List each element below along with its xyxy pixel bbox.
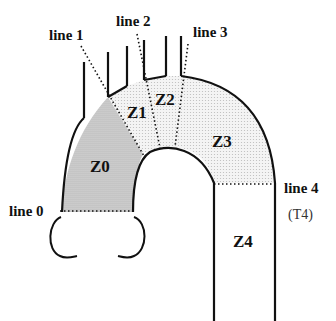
zone-z4-label: Z4 (233, 233, 253, 250)
zone-z3-label: Z3 (212, 133, 232, 150)
aortic-arch-diagram (0, 0, 336, 321)
line-4-label: line 4 (284, 181, 319, 196)
zone-z2-label: Z2 (155, 91, 175, 108)
zone-z0-label: Z0 (90, 158, 110, 175)
line-1-label: line 1 (49, 28, 84, 43)
aortic-root (50, 217, 144, 258)
line-4-sublabel: (T4) (288, 208, 313, 222)
line-0-label: line 0 (9, 204, 44, 219)
zone-z1-label: Z1 (127, 104, 147, 121)
line-2-label: line 2 (116, 14, 151, 29)
line-3-label: line 3 (193, 25, 228, 40)
